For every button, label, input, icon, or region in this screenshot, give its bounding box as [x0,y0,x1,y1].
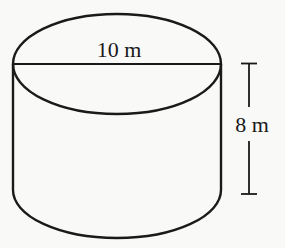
diameter-label: 10 m [97,37,142,62]
height-label: 8 m [235,112,269,137]
bottom-arc [13,190,221,238]
cylinder-diagram: 10 m 8 m [0,0,285,248]
cylinder-figure: 10 m 8 m [0,0,285,248]
